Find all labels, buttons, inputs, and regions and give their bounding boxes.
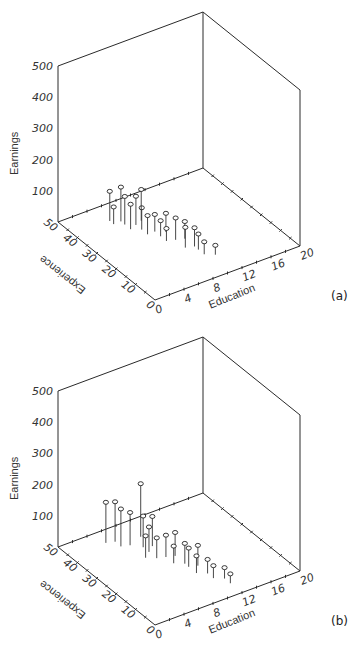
earnings-tick-label: 500 [32,385,53,398]
earnings-tick-label: 500 [32,60,53,73]
data-point [171,544,176,548]
earnings-tick-label: 300 [32,122,53,135]
data-point [139,187,144,191]
data-point [111,205,116,209]
chart-panel-b: 100200300400500Earnings048121620Educatio… [8,337,348,642]
earnings-tick-label: 400 [32,91,53,104]
figure: 100200300400500Earnings048121620Educatio… [0,0,360,645]
top-back-edge [58,337,203,391]
data-point [146,525,151,529]
experience-axis-label: Experience [37,253,88,296]
data-point [173,216,178,220]
education-tick-label: 20 [298,570,316,587]
data-point [173,530,178,534]
education-tick-label: 20 [298,245,316,262]
experience-tick-label: 40 [61,556,80,575]
experience-tick-label: 20 [99,587,118,606]
experience-tick-label: 10 [119,603,138,622]
experience-tick-label: 20 [99,262,118,281]
earnings-tick-label: 200 [32,154,53,167]
data-point [143,534,148,538]
education-tick-label: 4 [182,291,193,306]
data-point [182,220,187,224]
data-point [127,511,132,515]
data-point [211,564,216,568]
education-tick-label: 16 [269,256,287,273]
data-point [103,500,108,504]
experience-tick-label: 50 [41,216,60,235]
data-point [213,243,218,247]
education-tick-label: 16 [269,581,287,598]
data-point [196,232,201,236]
data-point [195,543,200,547]
data-point [158,219,163,223]
data-point [194,554,199,558]
earnings-axis-label: Earnings [8,131,20,175]
data-point [186,546,191,550]
data-point [118,185,123,189]
data-point [138,482,143,486]
experience-tick-label: 40 [61,231,80,250]
data-point [152,212,157,216]
data-point [182,541,187,545]
data-point [107,189,112,193]
data-point [112,500,117,504]
panel-label: (b) [331,614,348,628]
data-point [133,194,138,198]
data-point [205,557,210,561]
data-point [163,211,168,215]
chart-panel-a: 100200300400500Earnings048121620Educatio… [8,12,348,317]
data-point [202,240,207,244]
earnings-tick-label: 200 [32,479,53,492]
data-point [139,206,144,210]
data-point [141,514,146,518]
earnings-tick-label: 100 [32,185,53,198]
data-point [128,202,133,206]
earnings-axis-label: Earnings [8,456,20,500]
data-point [163,533,168,537]
top-right-edge [203,337,300,415]
education-tick-label: 4 [182,616,193,631]
experience-tick-label: 10 [119,278,138,297]
experience-axis-label: Experience [37,578,88,621]
experience-tick-label: 50 [41,541,60,560]
data-point [164,226,169,230]
top-back-edge [58,12,203,66]
data-point [228,572,233,576]
earnings-tick-label: 100 [32,510,53,523]
data-point [154,536,159,540]
data-point [183,225,188,229]
earnings-tick-label: 300 [32,447,53,460]
experience-tick-label: 30 [80,247,99,266]
experience-tick-label: 30 [80,572,99,591]
data-point [150,514,155,518]
top-right-edge [203,12,300,90]
panel-label: (a) [331,289,348,303]
data-point [145,214,150,218]
data-point [118,507,123,511]
data-point [192,226,197,230]
data-point [222,566,227,570]
earnings-tick-label: 400 [32,416,53,429]
data-point [122,194,127,198]
